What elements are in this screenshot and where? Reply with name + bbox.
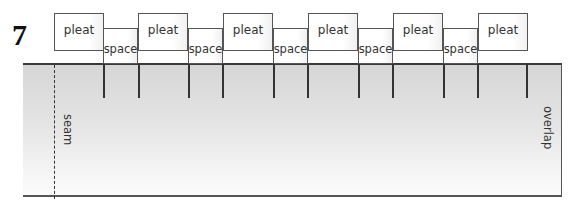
seam-label: seam (61, 114, 73, 145)
space-box: space (273, 28, 308, 64)
pleat-box: pleat (138, 13, 188, 51)
pleat-label: pleat (488, 23, 518, 37)
fold-tick (222, 64, 224, 98)
space-label: space (444, 42, 478, 56)
fold-tick (188, 64, 190, 98)
fold-tick (307, 64, 309, 98)
pleat-label: pleat (403, 23, 433, 37)
fold-tick (358, 64, 360, 98)
fold-tick (138, 64, 140, 98)
space-box: space (358, 28, 393, 64)
overlap-label: overlap (541, 106, 553, 149)
step-number: 7 (12, 20, 27, 50)
space-label: space (189, 42, 223, 56)
space-box: space (103, 28, 138, 64)
fold-tick (273, 64, 275, 98)
pleat-box: pleat (54, 13, 104, 51)
space-box: space (188, 28, 223, 64)
space-label: space (104, 42, 138, 56)
pleat-label: pleat (318, 23, 348, 37)
pleat-box: pleat (393, 13, 443, 51)
space-label: space (274, 42, 308, 56)
fold-tick (526, 64, 528, 98)
space-label: space (359, 42, 393, 56)
pleat-label: pleat (148, 23, 178, 37)
fold-tick (392, 64, 394, 98)
space-box: space (443, 28, 478, 64)
fold-tick (103, 64, 105, 98)
pleat-box: pleat (308, 13, 358, 51)
pleat-label: pleat (64, 23, 94, 37)
pleat-label: pleat (233, 23, 263, 37)
fold-tick (477, 64, 479, 98)
seam-dashed-line (54, 65, 55, 199)
pleat-box: pleat (478, 13, 528, 51)
fold-tick (443, 64, 445, 98)
pleat-box: pleat (223, 13, 273, 51)
